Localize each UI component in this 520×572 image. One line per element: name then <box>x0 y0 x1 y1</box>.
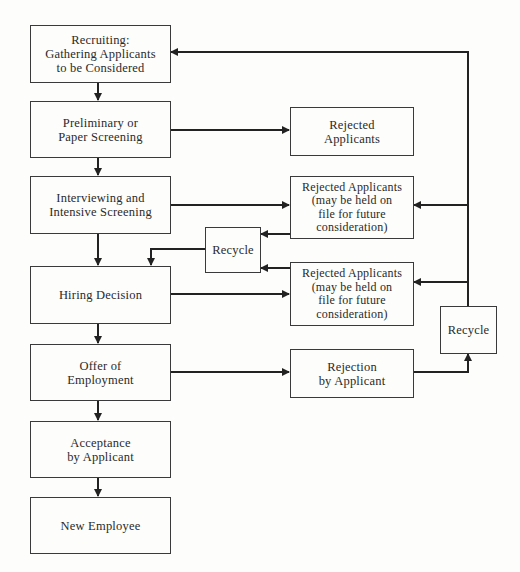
node-new-employee: New Employee <box>30 497 171 554</box>
node-recruiting: Recruiting: Gathering Applicants to be C… <box>30 25 171 83</box>
arrow-recycle-to-hiring <box>151 249 205 265</box>
node-hiring-decision: Hiring Decision <box>30 266 171 324</box>
node-label: Rejected Applicants (may be held on file… <box>302 181 402 235</box>
node-rejection-by-applicant: Rejection by Applicant <box>290 349 414 398</box>
node-label: Offer of Employment <box>67 359 134 387</box>
node-label: Recycle <box>448 323 490 337</box>
node-recycle-middle: Recycle <box>205 227 261 273</box>
node-label: Hiring Decision <box>59 288 142 302</box>
node-rejected-held-2: Rejected Applicants (may be held on file… <box>290 262 414 326</box>
node-recycle-right: Recycle <box>440 306 497 354</box>
node-offer-of-employment: Offer of Employment <box>30 344 171 401</box>
node-preliminary-screening: Preliminary or Paper Screening <box>30 101 171 158</box>
node-interviewing: Interviewing and Intensive Screening <box>30 176 171 234</box>
node-label: Rejection by Applicant <box>319 360 386 388</box>
node-label: Acceptance by Applicant <box>67 436 134 464</box>
node-rejected-held-1: Rejected Applicants (may be held on file… <box>290 176 414 239</box>
node-rejected-applicants: Rejected Applicants <box>290 107 414 156</box>
arrow-rejection-to-recycle <box>413 354 468 372</box>
node-label: Interviewing and Intensive Screening <box>49 191 152 219</box>
node-label: Preliminary or Paper Screening <box>58 116 143 144</box>
node-label: Recycle <box>212 243 254 257</box>
node-acceptance: Acceptance by Applicant <box>30 421 171 478</box>
node-label: Rejected Applicants (may be held on file… <box>302 267 402 321</box>
node-label: Rejected Applicants <box>324 118 380 146</box>
node-label: New Employee <box>61 519 141 533</box>
node-label: Recruiting: Gathering Applicants to be C… <box>45 33 156 75</box>
